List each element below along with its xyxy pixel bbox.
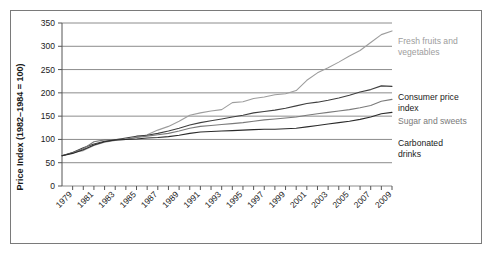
y-tick-label: 0: [50, 181, 55, 191]
series-line: [62, 86, 392, 156]
x-axis-ticks: 1979198119831985198719891991199319951997…: [54, 186, 394, 210]
series-label-line: Carbonated: [398, 138, 443, 148]
x-tick-label: 1983: [96, 189, 117, 210]
y-tick-label: 300: [41, 41, 55, 51]
series-label-line: drinks: [398, 149, 421, 159]
y-tick-label: 100: [41, 134, 55, 144]
line-chart: 050100150200250300350 197919811983198519…: [11, 11, 481, 243]
series-label-line: Sugar and sweets: [398, 116, 467, 126]
series-label-line: index: [398, 103, 419, 113]
series-line: [62, 112, 392, 155]
x-tick-label: 2009: [373, 189, 394, 210]
x-tick-label: 1991: [181, 189, 202, 210]
x-tick-label: 1997: [245, 189, 266, 210]
x-tick-label: 1995: [224, 189, 245, 210]
x-tick-label: 1979: [54, 189, 75, 210]
x-tick-label: 1981: [75, 189, 96, 210]
series-label: Sugar and sweets: [398, 116, 467, 126]
y-tick-label: 50: [46, 158, 56, 168]
series-label-line: Consumer price: [398, 92, 459, 102]
gridlines: [62, 23, 392, 186]
series-label: Consumer priceindex: [398, 92, 459, 113]
y-tick-label: 150: [41, 111, 55, 121]
y-tick-label: 350: [41, 18, 55, 28]
x-tick-label: 1985: [117, 189, 138, 210]
y-axis-ticks: 050100150200250300350: [41, 18, 62, 191]
x-tick-label: 2007: [352, 189, 373, 210]
x-tick-label: 2001: [288, 189, 309, 210]
x-tick-label: 1989: [160, 189, 181, 210]
series-label-line: vegetables: [398, 47, 440, 57]
series-label: Carbonateddrinks: [398, 138, 443, 159]
chart-figure: 050100150200250300350 197919811983198519…: [10, 10, 482, 244]
y-tick-label: 250: [41, 65, 55, 75]
y-tick-label: 200: [41, 88, 55, 98]
x-tick-label: 1987: [139, 189, 160, 210]
x-tick-label: 1999: [267, 189, 288, 210]
x-tick-label: 2005: [330, 189, 351, 210]
series-label-line: Fresh fruits and: [398, 36, 458, 46]
x-tick-label: 2003: [309, 189, 330, 210]
series-line: [62, 99, 392, 155]
series-labels: Fresh fruits andvegetablesConsumer price…: [398, 36, 467, 159]
x-tick-label: 1993: [203, 189, 224, 210]
series-label: Fresh fruits andvegetables: [398, 36, 458, 57]
y-axis-title: Price Index (1982–1984 = 100): [15, 64, 25, 191]
